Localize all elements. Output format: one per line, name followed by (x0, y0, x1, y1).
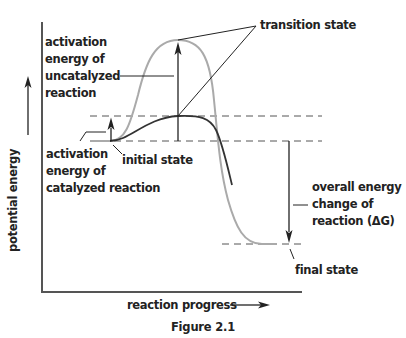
y-axis-label: potential energy (6, 149, 20, 252)
label-line: change of (312, 196, 402, 213)
transition-state-label: transition state (260, 17, 356, 34)
final-state-label: final state (295, 262, 358, 279)
label-line: catalyzed reaction (46, 180, 160, 197)
energy-diagram: transition state activation energy of un… (0, 0, 406, 338)
label-line: reaction (ΔG) (312, 213, 402, 230)
catalyzed-label-leader (80, 132, 106, 141)
label-line: overall energy (312, 179, 402, 196)
initial-state-label: initial state (122, 152, 193, 169)
label-line: uncatalyzed (45, 68, 120, 85)
transition-leader-1 (178, 26, 256, 40)
label-line: reaction (45, 85, 120, 102)
overall-energy-change-label: overall energy change of reaction (ΔG) (312, 179, 402, 230)
x-axis-label: reaction progress (127, 297, 237, 314)
final-state-leader (290, 249, 294, 259)
label-line: energy of (45, 51, 120, 68)
label-line: activation (45, 34, 120, 51)
uncatalyzed-activation-label: activation energy of uncatalyzed reactio… (45, 34, 120, 102)
figure-caption: Figure 2.1 (0, 320, 406, 334)
transition-leader-2 (178, 26, 256, 116)
